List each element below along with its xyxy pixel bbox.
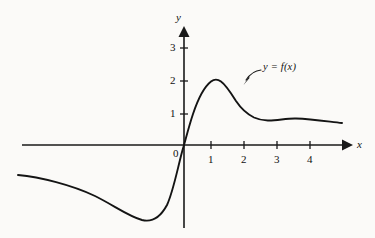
- function-curve: [18, 80, 342, 221]
- x-axis-arrow-icon: [342, 140, 353, 151]
- origin-label: 0: [173, 148, 179, 159]
- x-axis-label: x: [357, 139, 362, 150]
- x-tick-label-2: 2: [241, 154, 247, 165]
- y-tick-label-2: 2: [170, 75, 176, 86]
- x-tick-label-1: 1: [208, 154, 214, 165]
- y-tick-label-3: 3: [170, 42, 176, 53]
- x-tick-label-3: 3: [274, 154, 280, 165]
- x-tick-label-4: 4: [307, 154, 313, 165]
- graph-svg: [0, 0, 375, 238]
- figure-canvas: y x 0 3 2 1 1 2 3 4 y = f(x): [0, 0, 375, 238]
- y-axis-label: y: [176, 12, 181, 23]
- y-axis-arrow-icon: [179, 26, 190, 37]
- annotation-arrow-icon: [244, 77, 250, 86]
- y-tick-label-1: 1: [170, 108, 176, 119]
- curve-annotation-label: y = f(x): [263, 62, 296, 73]
